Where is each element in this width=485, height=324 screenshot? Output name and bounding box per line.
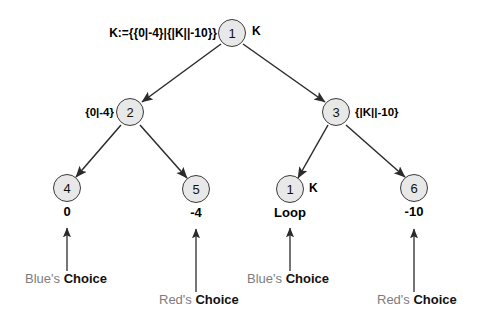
node-1-loop-side-label: K — [309, 181, 318, 195]
edge-2-to-5 — [140, 125, 187, 178]
node-root[interactable]: 1 — [218, 19, 246, 47]
node-4[interactable]: 4 — [53, 174, 81, 202]
node-2-side-label: {0|-4} — [56, 106, 114, 118]
node-root-label: 1 — [228, 26, 235, 41]
edge-root-to-2 — [142, 44, 221, 102]
node-1-loop[interactable]: 1 — [276, 175, 304, 203]
annotation-red-left-who: Red's — [159, 292, 192, 307]
annotation-red-right: Red's Choice — [377, 292, 457, 307]
edge-3-to-1loop — [298, 125, 328, 178]
node-1-loop-value: Loop — [260, 205, 320, 220]
node-2-label: 2 — [126, 105, 133, 120]
edge-2-to-4 — [76, 125, 121, 177]
annotation-blue-right-word: Choice — [286, 271, 329, 286]
node-1-loop-label: 1 — [286, 182, 293, 197]
node-4-label: 4 — [63, 181, 70, 196]
node-5-value: -4 — [166, 205, 226, 220]
annotation-blue-right-who: Blue's — [247, 271, 282, 286]
node-3[interactable]: 3 — [322, 98, 350, 126]
node-6-label: 6 — [410, 181, 417, 196]
edge-3-to-6 — [346, 125, 405, 177]
annotation-blue-left-who: Blue's — [25, 271, 60, 286]
root-formula-label: K:={{0|-4}|{|K||-10}} — [72, 26, 217, 40]
node-3-side-label: {|K||-10} — [355, 106, 399, 118]
annotation-red-left-word: Choice — [195, 292, 238, 307]
diagram-canvas: K:={{0|-4}|{|K||-10}} 1 K {0|-4} 2 3 {|K… — [0, 0, 485, 324]
node-root-side-label: K — [252, 24, 261, 38]
node-6[interactable]: 6 — [400, 174, 428, 202]
annotation-blue-left-word: Choice — [64, 271, 107, 286]
node-6-value: -10 — [384, 204, 444, 219]
annotation-red-right-word: Choice — [413, 292, 456, 307]
node-3-label: 3 — [332, 105, 339, 120]
annotation-blue-right: Blue's Choice — [247, 271, 329, 286]
node-2[interactable]: 2 — [116, 98, 144, 126]
node-5-label: 5 — [192, 182, 199, 197]
node-4-value: 0 — [37, 204, 97, 219]
edge-root-to-3 — [243, 44, 325, 102]
annotation-blue-left: Blue's Choice — [25, 271, 107, 286]
annotation-red-left: Red's Choice — [159, 292, 239, 307]
annotation-red-right-who: Red's — [377, 292, 410, 307]
node-5[interactable]: 5 — [182, 175, 210, 203]
